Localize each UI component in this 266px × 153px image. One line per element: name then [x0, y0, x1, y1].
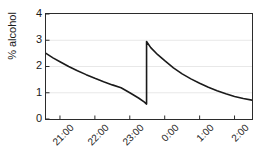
alcohol-concentration-chart: % alcohol 4 3 2 1 0 21:0022:0023:000:001… [0, 0, 266, 153]
y-tick-marks [46, 14, 50, 119]
y-tick-label: 1 [28, 87, 42, 98]
y-tick-label: 4 [28, 8, 42, 19]
plot-area [45, 13, 253, 120]
y-axis-label: % alcohol [6, 0, 18, 76]
x-tick-label: 0:00 [159, 122, 181, 144]
y-tick-label: 0 [28, 113, 42, 124]
x-tick-label: 2:00 [229, 122, 251, 144]
y-axis-tick-labels: 4 3 2 1 0 [24, 0, 42, 153]
x-tick-label: 1:00 [194, 122, 216, 144]
x-tick-marks [60, 116, 235, 120]
y-tick-label: 2 [28, 60, 42, 71]
plot-canvas [46, 14, 252, 119]
x-tick-label: 22:00 [85, 122, 110, 147]
x-tick-label: 21:00 [50, 122, 75, 147]
y-tick-label: 3 [28, 34, 42, 45]
series-line-alcohol [46, 42, 252, 104]
x-tick-label: 23:00 [120, 122, 145, 147]
gridlines [46, 40, 252, 93]
